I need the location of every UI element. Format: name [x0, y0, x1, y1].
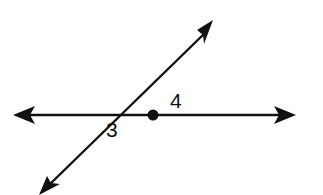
intersection-point [148, 110, 159, 121]
geometry-diagram [0, 0, 323, 195]
upper-arrowhead-icon [197, 20, 213, 44]
angle-4-label: 4 [170, 90, 182, 111]
angle-3-label: 3 [106, 119, 118, 140]
oblique-line [39, 20, 213, 195]
